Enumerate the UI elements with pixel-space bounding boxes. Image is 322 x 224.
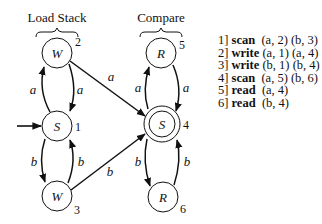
svg-text:b: b [78, 154, 85, 169]
edge-1-to-2 [42, 67, 50, 112]
svg-text:5: 5 [179, 38, 185, 52]
load-stack-brace [36, 28, 78, 37]
edge-4-to-6 [145, 139, 150, 186]
state-1: S 1 [42, 111, 81, 141]
svg-text:b: b [184, 154, 191, 169]
svg-text:W: W [52, 46, 64, 61]
state-5: R 5 [146, 38, 185, 68]
svg-text:R: R [156, 46, 165, 61]
svg-text:a: a [135, 80, 142, 95]
svg-text:S: S [54, 119, 61, 134]
svg-text:4: 4 [183, 118, 189, 132]
program-listing: 1] scan (a, 2) (b, 3) 2] write (a, 1) (a… [218, 34, 320, 110]
svg-text:a: a [108, 69, 115, 84]
compare-brace [140, 28, 182, 37]
svg-text:b: b [107, 164, 114, 179]
edge-1-to-3 [42, 139, 46, 182]
group-label-compare: Compare [137, 10, 185, 25]
edge-4-to-5 [145, 67, 149, 109]
svg-text:a: a [183, 80, 190, 95]
svg-text:2: 2 [75, 35, 81, 49]
state-4-accepting: S 4 [144, 106, 189, 142]
edge-3-to-1 [68, 140, 73, 183]
svg-text:3: 3 [74, 203, 80, 217]
program-line-6: 6] read (b, 4) [218, 97, 320, 110]
edge-5-to-4 [173, 65, 179, 111]
svg-text:1: 1 [75, 120, 81, 134]
svg-text:a: a [30, 82, 37, 97]
svg-text:S: S [159, 117, 166, 132]
svg-text:b: b [31, 154, 38, 169]
svg-text:a: a [77, 82, 84, 97]
svg-text:b: b [135, 154, 142, 169]
state-3: W 3 [42, 181, 80, 217]
svg-text:R: R [158, 190, 167, 205]
edge-2-to-1 [69, 64, 74, 111]
svg-text:W: W [52, 189, 64, 204]
svg-text:6: 6 [180, 202, 186, 216]
edge-6-to-4 [174, 140, 179, 185]
state-2: W 2 [42, 35, 81, 68]
state-6: R 6 [148, 182, 186, 216]
group-label-load-stack: Load Stack [28, 10, 87, 25]
